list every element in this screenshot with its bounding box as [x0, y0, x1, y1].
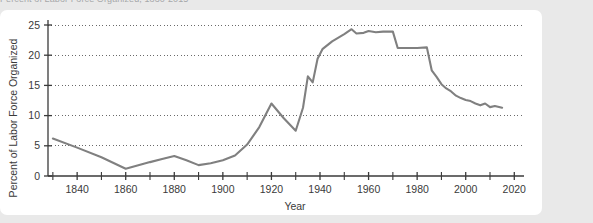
figure-card: 0510152025 18401860188019001920194019601…	[0, 10, 542, 215]
y-tick-labels: 0510152025	[28, 19, 40, 182]
y-axis-title: Percent of Labor Force Organized	[7, 38, 19, 197]
cut-off-caption-text: Percent of Labor Force Organized, 1830-2…	[0, 0, 593, 3]
x-tick-label: 1960	[357, 183, 381, 195]
x-tick-labels: 1840186018801900192019401960198020002020	[65, 183, 526, 195]
y-tick-label: 20	[28, 49, 40, 61]
y-tick-label: 15	[28, 79, 40, 91]
x-tick-label: 1980	[405, 183, 429, 195]
y-axis	[44, 20, 52, 176]
x-tick-label: 1900	[211, 183, 235, 195]
chart-svg: 0510152025 18401860188019001920194019601…	[0, 10, 542, 215]
y-tick-label: 10	[28, 109, 40, 121]
x-tick-label: 1840	[65, 183, 89, 195]
x-tick-label: 1880	[163, 183, 187, 195]
screenshot-root: Percent of Labor Force Organized, 1830-2…	[0, 0, 593, 223]
x-tick-label: 1940	[308, 183, 332, 195]
y-tick-label: 25	[28, 19, 40, 31]
x-tick-label: 2020	[503, 183, 527, 195]
x-tick-label: 1860	[114, 183, 138, 195]
data-series-line	[53, 29, 502, 169]
x-axis	[48, 172, 524, 180]
y-tick-label: 5	[34, 139, 40, 151]
line-chart: 0510152025 18401860188019001920194019601…	[0, 10, 542, 215]
gridlines	[48, 25, 524, 146]
cut-off-caption: Percent of Labor Force Organized, 1830-2…	[0, 0, 593, 8]
y-tick-label: 0	[34, 170, 40, 182]
x-tick-label: 2000	[454, 183, 478, 195]
x-tick-label: 1920	[260, 183, 284, 195]
x-axis-title: Year	[284, 200, 306, 212]
